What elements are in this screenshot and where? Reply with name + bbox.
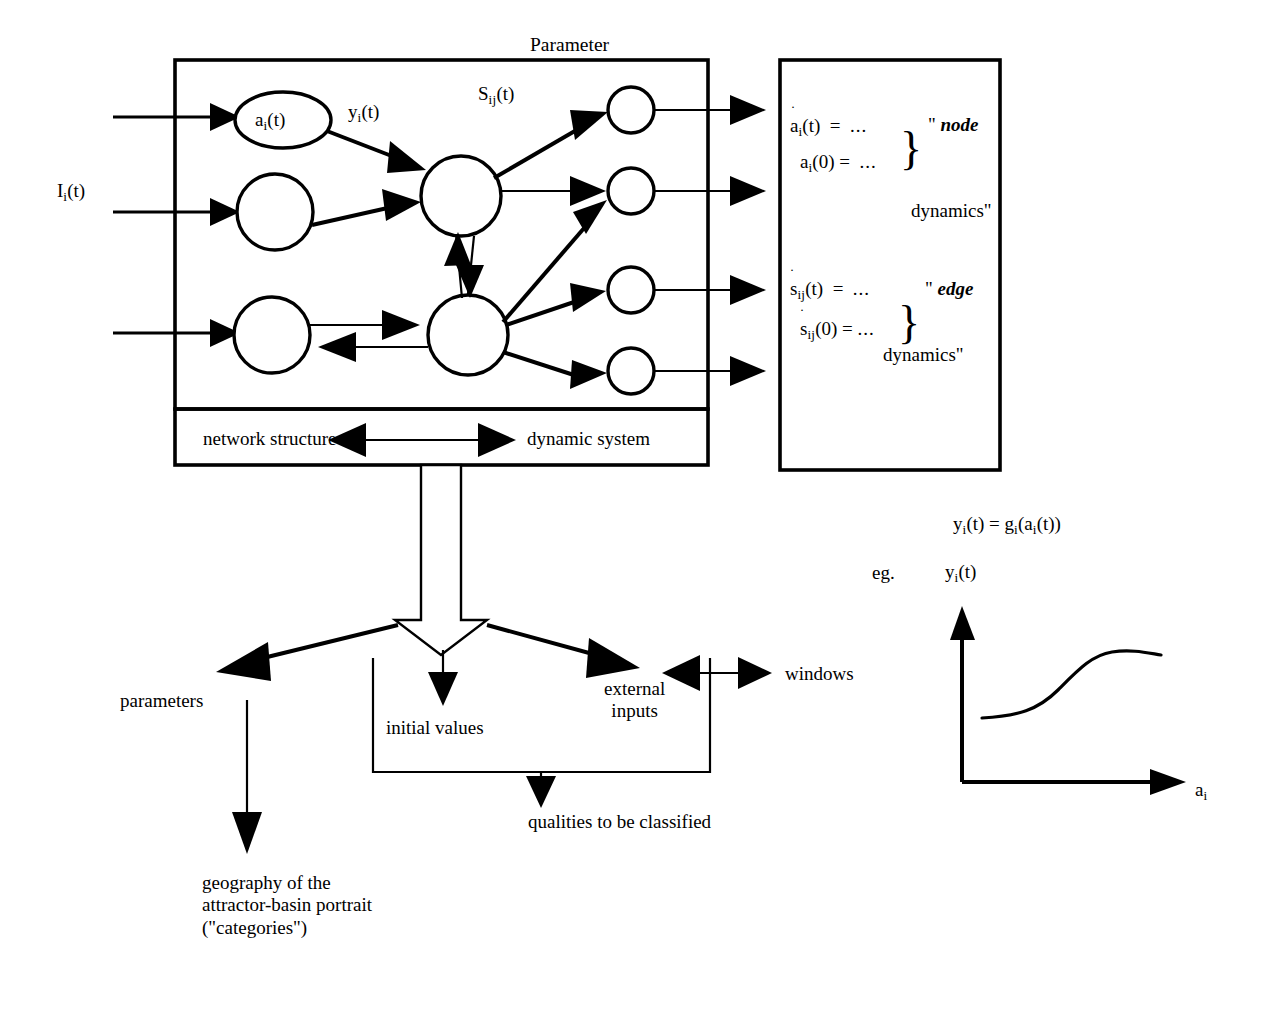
branch-qualities: qualities to be classified xyxy=(528,811,711,833)
diagram-svg xyxy=(0,0,1271,1011)
node-output-4 xyxy=(608,348,654,394)
y-axis-base: y xyxy=(945,561,955,582)
parameters-down-arrow xyxy=(232,700,262,854)
transfer-g-close: (t)) xyxy=(1037,513,1061,534)
activation-label: ai(t) xyxy=(255,109,285,134)
transfer-x-axis-label: ai xyxy=(1195,779,1207,804)
node-rate-base: a xyxy=(790,115,798,136)
equation-edge-rate: ̇sij(t) = ... xyxy=(790,278,870,303)
node-rate-eq: = xyxy=(830,115,841,136)
windows-double-arrow xyxy=(662,655,772,691)
node-input-2 xyxy=(237,174,313,250)
node-input-3 xyxy=(234,297,310,373)
external-inputs-line2: inputs xyxy=(604,700,665,722)
node-dynamics-tail: dynamics" xyxy=(911,200,992,222)
hollow-down-arrow xyxy=(395,465,487,655)
equation-node-initial: ai(0) = ... xyxy=(800,151,877,176)
footer-dynamic-system: dynamic system xyxy=(527,428,650,450)
external-inputs-line1: external xyxy=(604,678,665,700)
transfer-plot-curve xyxy=(982,651,1161,718)
edge-rate-rhs: ... xyxy=(853,278,870,299)
node-rate-rhs: ... xyxy=(850,115,867,136)
parameter-title: Parameter xyxy=(530,33,609,56)
edge-quote-open: " xyxy=(925,278,933,299)
branch-parameters: parameters xyxy=(120,690,203,712)
geography-line1: geography of the xyxy=(202,872,372,894)
edge-dynamics-tail: dynamics" xyxy=(883,344,964,366)
node-rate-arg: (t) xyxy=(802,115,820,136)
node-init-eq: = xyxy=(839,151,850,172)
y-axis-tail: (t) xyxy=(958,561,976,582)
equation-edge-initial: ̇sij(0) = ... xyxy=(800,318,875,343)
transfer-y-base: y xyxy=(953,513,963,534)
geography-line2: attractor-basin portrait xyxy=(202,894,372,916)
branch-initial-values: initial values xyxy=(386,717,484,739)
transfer-eg-label: eg. xyxy=(872,562,895,584)
edge-dynamics-brace: } xyxy=(898,300,920,346)
node-output-2 xyxy=(608,168,654,214)
weight-label: Sij(t) xyxy=(478,83,514,108)
transfer-g-base: g xyxy=(1005,513,1015,534)
node-dynamics-caption: " node xyxy=(928,114,979,136)
output-layer-nodes xyxy=(608,87,654,394)
weight-tail: (t) xyxy=(496,83,514,104)
branch-external-inputs: externalinputs xyxy=(604,678,665,723)
transfer-eq: = xyxy=(989,513,1000,534)
edge-init-arg: (0) xyxy=(815,318,837,339)
node-central-lower xyxy=(428,295,508,375)
edge-rate-arg: (t) xyxy=(805,278,823,299)
edge-init-eq: = xyxy=(842,318,853,339)
figure-canvas: Parameter Ii(t) ai(t) yi(t) Sij(t) netwo… xyxy=(0,0,1271,1011)
geography-line3: ("categories") xyxy=(202,917,372,939)
footer-double-arrow xyxy=(328,423,516,457)
edge-emph: edge xyxy=(938,278,974,299)
transfer-plot-axes xyxy=(950,606,1186,795)
transfer-equation: yi(t) = gi(ai(t)) xyxy=(953,513,1061,538)
transfer-y-axis-label: yi(t) xyxy=(945,561,976,586)
equation-node-rate: ̇ai(t) = ... xyxy=(790,115,867,140)
transfer-g-open: (a xyxy=(1018,513,1033,534)
branch-windows: windows xyxy=(785,663,854,685)
node-init-rhs: ... xyxy=(859,151,876,172)
x-axis-sub: i xyxy=(1203,788,1207,803)
node-emph: node xyxy=(941,114,979,135)
node-output-1 xyxy=(608,87,654,133)
output-signal-label: yi(t) xyxy=(348,101,379,126)
node-init-arg: (0) xyxy=(812,151,834,172)
weight-base: S xyxy=(478,83,489,104)
output-signal-base: y xyxy=(348,101,358,122)
node-dynamics-brace: } xyxy=(900,126,922,172)
edge-dynamics-caption: " edge xyxy=(925,278,973,300)
edge-init-base: s xyxy=(800,318,807,339)
edge-rate-eq: = xyxy=(833,278,844,299)
input-signal-tail: (t) xyxy=(67,180,85,201)
output-signal-tail: (t) xyxy=(361,101,379,122)
edge-rate-base: s xyxy=(790,278,797,299)
node-output-3 xyxy=(608,267,654,313)
edge-init-rhs: ... xyxy=(858,318,875,339)
footer-network-structure: network structure xyxy=(203,428,336,450)
activation-tail: (t) xyxy=(267,109,285,130)
transfer-y-arg: (t) xyxy=(966,513,984,534)
input-layer-nodes xyxy=(234,92,331,373)
branch-geography: geography of theattractor-basin portrait… xyxy=(202,872,372,939)
node-quote-open: " xyxy=(928,114,936,135)
output-arrows xyxy=(654,95,766,386)
node-central-upper xyxy=(421,156,501,236)
input-signal-label: Ii(t) xyxy=(57,180,85,205)
